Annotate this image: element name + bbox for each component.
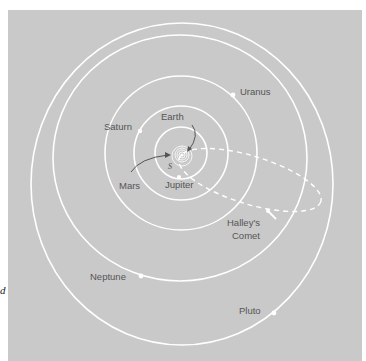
uranus-dot [231, 93, 236, 98]
uranus-label: Uranus [240, 87, 271, 97]
pluto-dot [272, 311, 277, 316]
jupiter-label: Jupiter [165, 180, 194, 190]
solar-system-diagram: S Earth Mars Jupiter Saturn Uranus Neptu… [0, 0, 366, 361]
halley-comet-tail [268, 211, 276, 219]
saturn-dot [138, 129, 142, 133]
halley-comet-label-line1: Halley's [227, 218, 260, 228]
earth-label: Earth [161, 112, 184, 122]
mars-label: Mars [119, 181, 140, 191]
saturn-label: Saturn [104, 122, 132, 132]
sun-label: S [168, 163, 172, 171]
neptune-label: Neptune [90, 272, 126, 282]
sun-dot [180, 153, 183, 156]
pluto-label: Pluto [239, 306, 261, 316]
halley-comet-label-line2: Comet [232, 231, 260, 241]
uranus-orbit [105, 76, 257, 230]
neptune-dot [139, 274, 144, 279]
jupiter-orbit [155, 127, 207, 179]
cropped-caption-fragment: d [0, 284, 6, 296]
mars-arrowhead-icon [165, 152, 171, 158]
